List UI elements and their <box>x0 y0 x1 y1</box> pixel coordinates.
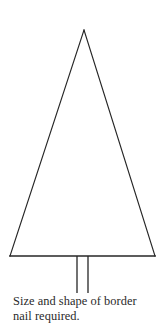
figure-root: Size and shape of border nail required. <box>0 0 166 333</box>
caption-line-2: nail required. <box>13 309 165 324</box>
border-nail-diagram <box>0 0 166 300</box>
caption-line-1: Size and shape of border <box>13 294 165 309</box>
figure-caption: Size and shape of border nail required. <box>13 294 165 323</box>
diagram-background <box>0 0 166 300</box>
